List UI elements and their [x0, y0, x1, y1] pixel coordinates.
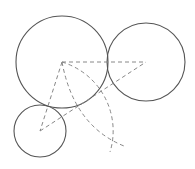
- dashed-lines-group: [40, 62, 146, 131]
- dashed-line-2: [40, 62, 146, 131]
- geometry-diagram: [0, 0, 195, 169]
- dashed-arc-1: [62, 62, 124, 146]
- dashed-line-1: [40, 62, 62, 131]
- circles-group: [14, 16, 185, 157]
